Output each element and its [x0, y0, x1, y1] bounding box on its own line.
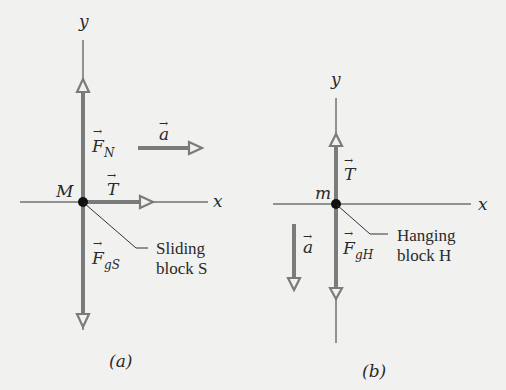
caption-a: (a)	[109, 351, 132, 371]
label-tension-b: → T	[344, 154, 357, 184]
svg-text:N: N	[103, 146, 115, 160]
free-body-diagram: y x M → F N →	[0, 0, 506, 390]
label-acceleration-a: → a	[159, 117, 169, 144]
svg-text:a: a	[159, 124, 169, 144]
svg-text:gH: gH	[355, 248, 374, 262]
vector-tension-b	[330, 134, 342, 204]
label-tension-a: → T	[107, 169, 120, 199]
callout-sliding-line2: block S	[156, 259, 207, 278]
svg-text:T: T	[344, 164, 357, 184]
y-axis-label-a: y	[78, 11, 89, 31]
label-gravity-force-sliding: → F gS	[91, 237, 120, 272]
vector-acceleration-a	[138, 142, 202, 154]
svg-text:T: T	[107, 179, 120, 199]
label-acceleration-b: → a	[303, 230, 313, 257]
particle-label-b: m	[315, 183, 331, 203]
callout-sliding-line1: Sliding	[156, 239, 206, 258]
callout-hanging-line2: block H	[397, 246, 451, 265]
vector-acceleration-b	[288, 224, 300, 290]
svg-text:gS: gS	[104, 258, 120, 272]
vector-gravity-force-sliding	[77, 202, 89, 327]
x-axis-label-b: x	[478, 194, 488, 214]
y-axis-label-b: y	[330, 69, 341, 89]
panel-b: y x m → T → F gH → a	[273, 69, 488, 381]
svg-text:F: F	[342, 238, 356, 258]
panel-a: y x M → F N →	[20, 11, 223, 371]
vector-gravity-force-hanging	[330, 204, 342, 299]
svg-text:F: F	[91, 248, 105, 268]
callout-hanging-line1: Hanging	[397, 226, 456, 245]
vector-normal-force	[77, 79, 89, 202]
label-gravity-force-hanging: → F gH	[342, 227, 374, 262]
particle-label-a: M	[55, 181, 74, 201]
svg-text:F: F	[91, 136, 105, 156]
caption-b: (b)	[362, 361, 386, 381]
x-axis-label-a: x	[213, 191, 223, 211]
label-normal-force: → F N	[91, 125, 115, 160]
svg-text:a: a	[303, 237, 313, 257]
